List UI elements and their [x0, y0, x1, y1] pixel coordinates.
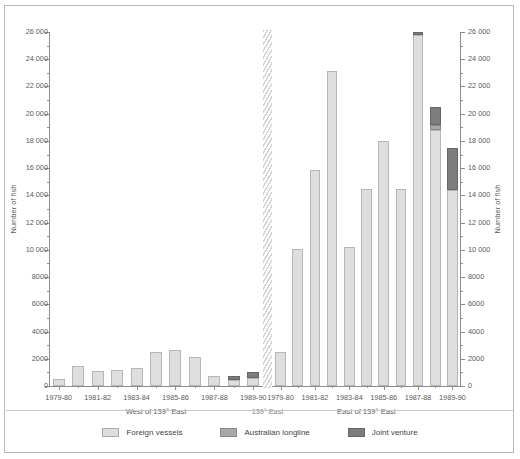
x-tick-east-1983-84 — [349, 386, 350, 390]
legend-label-joint-venture: Joint venture — [372, 428, 418, 437]
y-tick-left-17000 — [47, 155, 49, 156]
y-axis-label-left-0: 0 — [44, 382, 48, 390]
y-tick-left-25000 — [47, 46, 49, 47]
x-axis-label-east-1979-80: 1979-80 — [267, 393, 294, 402]
y-tick-right-22000 — [461, 86, 465, 87]
bar-east-1979-80[interactable] — [275, 352, 286, 386]
legend-swatch-foreign-vessels — [102, 428, 119, 437]
y-axis-label-left-6000: 6000 — [32, 300, 48, 308]
bar-east-1982-83[interactable] — [327, 71, 338, 386]
bar-east-1984-85[interactable] — [361, 189, 372, 386]
bar-west-1980-81[interactable] — [72, 366, 84, 386]
bar-segment-foreign-east-1985-86 — [378, 141, 389, 386]
x-axis-label-east-1985-86: 1985-86 — [370, 393, 397, 402]
bar-east-1985-86[interactable] — [378, 141, 389, 386]
bar-east-1981-82[interactable] — [310, 170, 321, 386]
bar-segment-foreign-west-1989-90 — [247, 378, 259, 386]
bar-east-1987-88[interactable] — [413, 32, 424, 386]
y-axis-title-left: Number of fish — [9, 185, 18, 234]
y-tick-left-3000 — [47, 345, 49, 346]
x-tick-west-1984-85 — [156, 386, 157, 388]
y-tick-left-19000 — [47, 127, 49, 128]
y-tick-right-7000 — [461, 291, 463, 292]
y-tick-right-15000 — [461, 182, 463, 183]
bar-segment-foreign-east-1986-87 — [396, 189, 407, 386]
bar-east-1980-81[interactable] — [292, 249, 303, 387]
legend-item-joint-venture[interactable]: Joint venture — [348, 428, 418, 437]
bar-west-1987-88[interactable] — [208, 376, 220, 386]
x-axis-label-west-1981-82: 1981-82 — [84, 393, 111, 402]
y-tick-right-3000 — [461, 345, 463, 346]
y-axis-label-right-12000: 12 000 — [468, 219, 490, 227]
y-axis-label-right-0: 0 — [468, 382, 472, 390]
bar-segment-joint-east-1989-90 — [447, 148, 458, 190]
x-tick-east-1988-89 — [435, 386, 436, 388]
y-tick-left-9000 — [47, 263, 49, 264]
bar-west-1983-84[interactable] — [131, 368, 143, 386]
chart-figure: 002000200040004000600060008000800010 000… — [4, 5, 514, 453]
bar-west-1979-80[interactable] — [53, 379, 65, 386]
bar-segment-foreign-east-1987-88 — [413, 35, 424, 386]
bar-west-1982-83[interactable] — [111, 370, 123, 386]
bar-segment-foreign-west-1985-86 — [169, 350, 181, 386]
x-tick-west-1989-90 — [253, 386, 254, 390]
x-tick-east-1980-81 — [298, 386, 299, 388]
y-tick-right-19000 — [461, 127, 463, 128]
y-tick-right-2000 — [461, 359, 465, 360]
x-axis-label-west-1983-84: 1983-84 — [123, 393, 150, 402]
y-axis-label-left-2000: 2000 — [32, 355, 48, 363]
bar-east-1983-84[interactable] — [344, 247, 355, 386]
x-axis-label-west-1989-90: 1989-90 — [240, 393, 267, 402]
legend-label-foreign-vessels: Foreign vessels — [126, 428, 182, 437]
bar-segment-foreign-east-1984-85 — [361, 189, 372, 386]
y-axis-label-left-12000: 12 000 — [26, 219, 48, 227]
y-tick-right-6000 — [461, 304, 465, 305]
bar-segment-foreign-west-1987-88 — [208, 376, 220, 386]
y-tick-right-24000 — [461, 59, 465, 60]
bar-west-1985-86[interactable] — [169, 350, 181, 386]
y-tick-left-11000 — [47, 236, 49, 237]
y-axis-label-left-26000: 26 000 — [26, 28, 48, 36]
bar-west-1989-90[interactable] — [247, 372, 259, 386]
bar-east-1989-90[interactable] — [447, 148, 458, 386]
y-tick-right-16000 — [461, 168, 465, 169]
y-axis-label-right-16000: 16 000 — [468, 164, 490, 172]
y-tick-right-13000 — [461, 209, 463, 210]
bar-west-1988-89[interactable] — [228, 376, 240, 386]
bar-segment-foreign-west-1979-80 — [53, 379, 65, 386]
y-tick-right-23000 — [461, 73, 463, 74]
bar-segment-joint-east-1988-89 — [430, 107, 441, 125]
bar-segment-foreign-east-1979-80 — [275, 352, 286, 386]
x-tick-east-1985-86 — [384, 386, 385, 390]
x-tick-west-1980-81 — [78, 386, 79, 388]
legend-item-australian-longline[interactable]: Australian longline — [220, 428, 309, 437]
bar-east-1986-87[interactable] — [396, 189, 407, 386]
y-tick-right-0 — [461, 386, 465, 387]
y-axis-label-left-16000: 16 000 — [26, 164, 48, 172]
legend-item-foreign-vessels[interactable]: Foreign vessels — [102, 428, 182, 437]
x-tick-west-1985-86 — [175, 386, 176, 390]
x-axis — [49, 386, 461, 387]
bar-west-1986-87[interactable] — [189, 357, 201, 386]
bar-segment-foreign-east-1989-90 — [447, 190, 458, 386]
y-tick-left-21000 — [47, 100, 49, 101]
y-tick-left-13000 — [47, 209, 49, 210]
y-axis-label-right-8000: 8000 — [468, 273, 484, 281]
y-axis-label-right-20000: 20 000 — [468, 110, 490, 118]
bar-east-1988-89[interactable] — [430, 107, 441, 386]
y-tick-right-25000 — [461, 46, 463, 47]
x-axis-label-east-1983-84: 1983-84 — [336, 393, 363, 402]
bar-west-1981-82[interactable] — [92, 371, 104, 386]
y-axis-label-left-22000: 22 000 — [26, 82, 48, 90]
bar-segment-foreign-east-1980-81 — [292, 249, 303, 387]
y-axis-title-right: Number of fish — [493, 185, 502, 234]
x-tick-west-1986-87 — [195, 386, 196, 388]
y-axis-label-right-18000: 18 000 — [468, 137, 490, 145]
x-axis-label-west-1987-88: 1987-88 — [201, 393, 228, 402]
y-tick-right-20000 — [461, 114, 465, 115]
bar-segment-foreign-west-1984-85 — [150, 352, 162, 386]
y-tick-right-14000 — [461, 195, 465, 196]
x-tick-west-1987-88 — [214, 386, 215, 390]
y-tick-right-5000 — [461, 318, 463, 319]
bar-west-1984-85[interactable] — [150, 352, 162, 386]
